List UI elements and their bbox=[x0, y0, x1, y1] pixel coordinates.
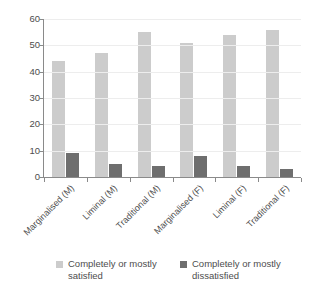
y-tick-mark bbox=[39, 45, 43, 46]
x-tick-mark bbox=[301, 178, 302, 182]
gridline bbox=[44, 72, 301, 73]
x-tick-mark bbox=[87, 178, 88, 182]
legend-swatch-icon bbox=[56, 261, 63, 268]
bar-chart: 0102030405060 Marginalised (M)Liminal (M… bbox=[0, 0, 312, 300]
x-tick-mark bbox=[173, 178, 174, 182]
legend-label: Completely or mostly dissatisfied bbox=[192, 258, 304, 282]
x-tick-mark bbox=[44, 178, 45, 182]
y-tick-label: 50 bbox=[18, 40, 40, 50]
x-axis-category-labels: Marginalised (M)Liminal (M)Traditional (… bbox=[0, 183, 312, 255]
x-tick-mark bbox=[258, 178, 259, 182]
plot-area: 0102030405060 bbox=[0, 0, 312, 190]
gridline bbox=[44, 45, 301, 46]
y-tick-mark bbox=[39, 19, 43, 20]
gridline bbox=[44, 151, 301, 152]
bar-satisfied bbox=[223, 35, 236, 177]
legend-swatch-icon bbox=[180, 261, 187, 268]
bar-dissatisfied bbox=[237, 166, 250, 177]
bar-dissatisfied bbox=[280, 169, 293, 177]
bar-dissatisfied bbox=[66, 153, 79, 177]
y-tick-label: 0 bbox=[18, 172, 40, 182]
y-tick-mark bbox=[39, 72, 43, 73]
y-tick-mark bbox=[39, 124, 43, 125]
gridline bbox=[44, 19, 301, 20]
gridline bbox=[44, 98, 301, 99]
gridline bbox=[44, 124, 301, 125]
chart-legend: Completely or mostly satisfiedCompletely… bbox=[0, 258, 312, 298]
y-tick-label: 60 bbox=[18, 14, 40, 24]
bar-satisfied bbox=[180, 43, 193, 177]
bar-dissatisfied bbox=[194, 156, 207, 177]
bar-satisfied bbox=[266, 30, 279, 177]
legend-label: Completely or mostly satisfied bbox=[68, 258, 168, 282]
x-tick-mark bbox=[215, 178, 216, 182]
bar-dissatisfied bbox=[152, 166, 165, 177]
y-tick-mark bbox=[39, 177, 43, 178]
y-tick-mark bbox=[39, 151, 43, 152]
y-tick-label: 20 bbox=[18, 119, 40, 129]
bar-dissatisfied bbox=[109, 164, 122, 177]
legend-item[interactable]: Completely or mostly satisfied bbox=[56, 258, 168, 282]
y-tick-label: 40 bbox=[18, 67, 40, 77]
y-axis-tick-labels: 0102030405060 bbox=[18, 13, 40, 178]
y-tick-label: 30 bbox=[18, 93, 40, 103]
y-tick-label: 10 bbox=[18, 146, 40, 156]
y-tick-mark bbox=[39, 98, 43, 99]
bar-satisfied bbox=[138, 32, 151, 177]
x-tick-mark bbox=[130, 178, 131, 182]
legend-item[interactable]: Completely or mostly dissatisfied bbox=[180, 258, 304, 282]
bar-satisfied bbox=[52, 61, 65, 177]
